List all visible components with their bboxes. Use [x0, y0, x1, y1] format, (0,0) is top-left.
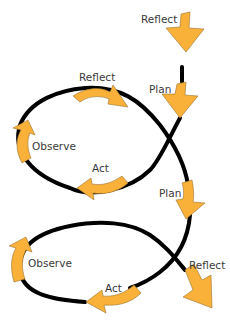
label-reflect-2: Reflect — [189, 260, 225, 271]
label-plan-1: Plan — [149, 84, 171, 95]
label-observe-2: Observe — [28, 258, 72, 269]
label-reflect-top: Reflect — [141, 14, 177, 25]
plan-arrow-2-icon — [176, 180, 205, 219]
label-act-2: Act — [105, 283, 122, 294]
label-plan-2: Plan — [159, 188, 181, 199]
label-observe-1: Observe — [32, 141, 76, 152]
label-act-1: Act — [92, 163, 109, 174]
act-arc-arrow-1-icon — [77, 176, 128, 200]
action-research-spiral-diagram — [0, 0, 230, 325]
label-reflect-1: Reflect — [79, 72, 115, 83]
